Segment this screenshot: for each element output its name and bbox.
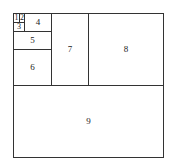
tile-6: 6 bbox=[13, 49, 52, 86]
tile-label: 7 bbox=[68, 45, 73, 54]
tile-label: 4 bbox=[36, 18, 41, 27]
tile-label: 3 bbox=[17, 23, 21, 31]
tile-8: 8 bbox=[88, 13, 164, 86]
tile-7: 7 bbox=[51, 13, 89, 86]
tile-4: 4 bbox=[24, 13, 52, 32]
tile-label: 6 bbox=[30, 63, 35, 72]
tile-5: 5 bbox=[13, 31, 52, 50]
tile-label: 1 bbox=[15, 14, 19, 22]
tile-label: 5 bbox=[30, 36, 35, 45]
tile-label: 9 bbox=[86, 117, 91, 126]
tile-label: 8 bbox=[124, 45, 129, 54]
tile-9: 9 bbox=[13, 85, 164, 158]
